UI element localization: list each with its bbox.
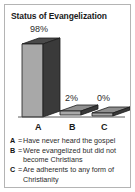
- plot-area: 98% 2% 0%: [5, 23, 130, 123]
- data-label-c: 0%: [97, 93, 110, 103]
- legend-item-a: A = Have never heard the gospel: [10, 136, 127, 145]
- figure-container: Status of Evangelization: [0, 0, 135, 192]
- bar-c-front-face: [92, 113, 113, 116]
- bar-a-front-face: [22, 44, 43, 117]
- legend-item-b: B = Were evangelized but did not become …: [10, 146, 127, 165]
- category-tick-b: B: [69, 122, 76, 132]
- bar-a-side-face: [43, 38, 60, 117]
- legend-item-c: C = Are adherents to any form of Christi…: [10, 165, 127, 184]
- category-tick-c: C: [101, 122, 108, 132]
- bar-chart-graphic: [5, 23, 130, 123]
- data-label-a: 98%: [30, 24, 48, 34]
- legend-key-c: C: [10, 165, 17, 174]
- legend: A = Have never heard the gospel B = Were…: [10, 136, 127, 185]
- legend-text-b: Were evangelized but did not become Chri…: [23, 146, 127, 165]
- legend-text-c: Are adherents to any form of Christianit…: [23, 165, 127, 184]
- data-label-b: 2%: [65, 93, 78, 103]
- chart-frame: Status of Evangelization: [4, 4, 131, 188]
- legend-key-b: B: [10, 146, 17, 155]
- category-axis: A B C: [5, 122, 130, 134]
- page-title: Status of Evangelization: [11, 11, 107, 21]
- category-tick-a: A: [35, 122, 42, 132]
- legend-text-a: Have never heard the gospel: [23, 136, 127, 145]
- legend-key-a: A: [10, 136, 17, 145]
- bar-b-front-face: [60, 111, 81, 115]
